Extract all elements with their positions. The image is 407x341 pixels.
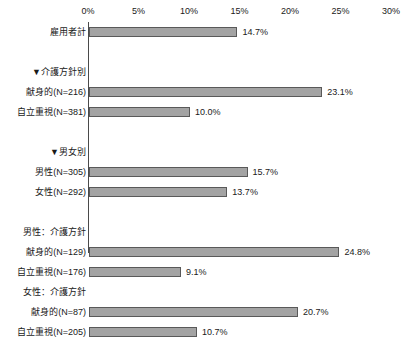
category-label: 男性(N=305) — [35, 162, 86, 182]
bar-value-label: 10.7% — [202, 322, 228, 341]
bar-container — [89, 322, 197, 341]
x-tick-25: 25% — [331, 4, 349, 18]
bar-container — [89, 102, 190, 122]
chart-row: 雇用者計14.7% — [0, 22, 407, 42]
chart-group-header: ▼男女別 — [0, 142, 407, 162]
category-label: 女性(N=292) — [35, 182, 86, 202]
group-header-label: 男性：介護方針 — [23, 222, 86, 242]
x-tick-15: 15% — [230, 4, 248, 18]
x-tick-5: 5% — [132, 4, 145, 18]
chart-row: 自立重視(N=381)10.0% — [0, 102, 407, 122]
chart-spacer-row — [0, 122, 407, 142]
category-label: 献身的(N=129) — [26, 242, 86, 262]
bar — [89, 87, 322, 97]
x-tick-10: 10% — [180, 4, 198, 18]
bar-value-label: 24.8% — [344, 242, 370, 262]
chart-row: 男性(N=305)15.7% — [0, 162, 407, 182]
category-label: 献身的(N=87) — [31, 302, 86, 322]
bar-value-label: 20.7% — [303, 302, 329, 322]
bar-container — [89, 82, 322, 102]
chart-spacer-row — [0, 42, 407, 62]
bar — [89, 327, 197, 337]
bar — [89, 187, 227, 197]
bar-value-label: 15.7% — [253, 162, 279, 182]
chart-row: 献身的(N=87)20.7% — [0, 302, 407, 322]
bar-container — [89, 182, 227, 202]
bar-value-label: 10.0% — [195, 102, 221, 122]
x-tick-30: 30% — [382, 4, 400, 18]
category-label: 献身的(N=216) — [26, 82, 86, 102]
bar-value-label: 14.7% — [242, 22, 268, 42]
bar-container — [89, 162, 248, 182]
x-tick-0: 0% — [81, 4, 94, 18]
group-header-label: ▼男女別 — [50, 142, 86, 162]
bar — [89, 307, 298, 317]
bar — [89, 27, 237, 37]
category-label: 自立重視(N=381) — [17, 102, 86, 122]
chart-group-header: 女性：介護方針 — [0, 282, 407, 302]
category-label: 自立重視(N=205) — [17, 322, 86, 341]
chart-spacer-row — [0, 202, 407, 222]
bar-value-label: 23.1% — [327, 82, 353, 102]
bar-value-label: 13.7% — [232, 182, 258, 202]
bar-value-label: 9.1% — [186, 262, 207, 282]
bar — [89, 267, 181, 277]
chart-row: 女性(N=292)13.7% — [0, 182, 407, 202]
group-header-label: 女性：介護方針 — [23, 282, 86, 302]
chart-row: 献身的(N=129)24.8% — [0, 242, 407, 262]
bar-container — [89, 22, 237, 42]
chart-group-header: 男性：介護方針 — [0, 222, 407, 242]
group-header-label: ▼介護方針別 — [32, 62, 86, 82]
category-label: 自立重視(N=176) — [17, 262, 86, 282]
bar — [89, 167, 248, 177]
chart-group-header: ▼介護方針別 — [0, 62, 407, 82]
bar-container — [89, 302, 298, 322]
bar-container — [89, 262, 181, 282]
bar — [89, 107, 190, 117]
category-label: 雇用者計 — [50, 22, 86, 42]
x-axis-tick-labels: 0%5%10%15%20%25%30% — [0, 4, 407, 20]
chart-row: 自立重視(N=176)9.1% — [0, 262, 407, 282]
chart-row: 献身的(N=216)23.1% — [0, 82, 407, 102]
chart-row: 自立重視(N=205)10.7% — [0, 322, 407, 341]
bar — [89, 247, 339, 257]
bar-container — [89, 242, 339, 262]
x-tick-20: 20% — [281, 4, 299, 18]
